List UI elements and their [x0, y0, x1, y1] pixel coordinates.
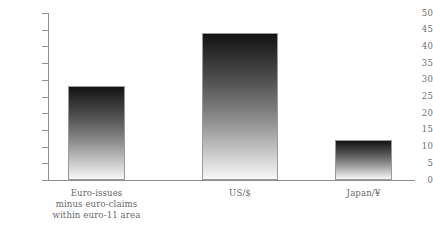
category-label-1: Euro-issuesminus euro-claimswithin euro-…: [22, 188, 172, 222]
bar-2: [202, 33, 278, 180]
category-label-2: US/$: [185, 188, 295, 199]
category-label-line: minus euro-claims: [22, 199, 172, 210]
category-label-line: within euro-11 area: [22, 210, 172, 221]
y-tick-label-5: 5: [395, 159, 433, 168]
y-tick-30: [42, 80, 48, 81]
y-tick-label-25: 25: [395, 92, 433, 101]
y-tick-10: [42, 147, 48, 148]
y-tick-5: [42, 163, 48, 164]
y-tick-45: [42, 30, 48, 31]
y-tick-label-0: 0: [395, 176, 433, 185]
y-tick-label-45: 45: [395, 25, 433, 34]
category-label-line: US/$: [185, 188, 295, 199]
y-tick-label-30: 30: [395, 75, 433, 84]
bar-1: [68, 86, 125, 180]
y-tick-label-50: 50: [395, 9, 433, 18]
bar-3: [335, 140, 392, 180]
y-tick-25: [42, 97, 48, 98]
y-tick-label-40: 40: [395, 42, 433, 51]
category-label-3: Japan/¥: [309, 188, 419, 199]
bar-chart-figure: 05101520253035404550 Euro-issuesminus eu…: [0, 0, 433, 225]
category-label-line: Euro-issues: [22, 188, 172, 199]
y-tick-0: [42, 180, 48, 181]
y-tick-15: [42, 130, 48, 131]
category-label-line: Japan/¥: [309, 188, 419, 199]
y-tick-label-10: 10: [395, 142, 433, 151]
x-axis-line: [48, 180, 415, 181]
y-tick-40: [42, 46, 48, 47]
y-axis-line: [48, 13, 49, 181]
plot-area: 05101520253035404550 Euro-issuesminus eu…: [0, 0, 433, 225]
y-tick-label-15: 15: [395, 125, 433, 134]
y-tick-label-20: 20: [395, 109, 433, 118]
y-tick-20: [42, 113, 48, 114]
y-tick-label-35: 35: [395, 59, 433, 68]
y-tick-50: [42, 13, 48, 14]
y-tick-35: [42, 63, 48, 64]
